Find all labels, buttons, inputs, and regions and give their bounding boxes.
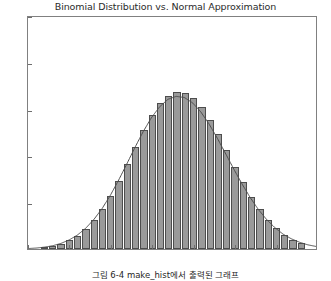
figure-container: Binomial Distribution vs. Normal Approxi…: [0, 0, 331, 281]
plot-area: 0.000.020.040.060.080.105560657075808590: [27, 16, 317, 250]
figure-caption: 그림 6-4 make_hist에서 출력된 그래프: [0, 268, 331, 280]
normal-approximation-curve: [28, 17, 316, 249]
plot-inner: [28, 17, 316, 249]
chart-title: Binomial Distribution vs. Normal Approxi…: [0, 1, 331, 12]
